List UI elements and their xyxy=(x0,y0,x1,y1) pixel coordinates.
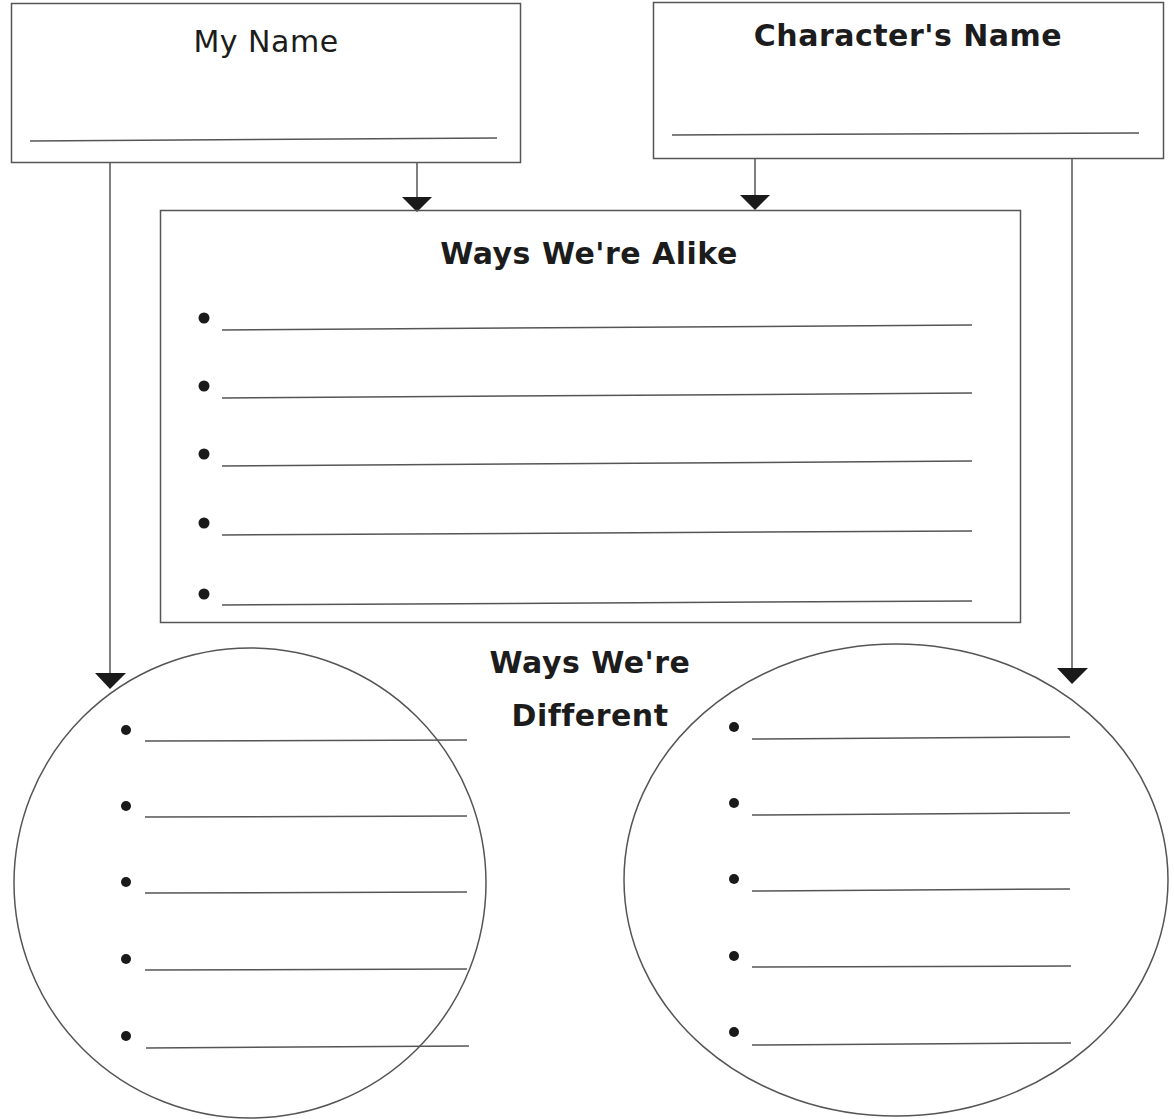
alike-title: Ways We're Alike xyxy=(440,236,738,271)
bullet-icon xyxy=(121,725,131,735)
my-differences-ellipse xyxy=(14,648,486,1118)
my-diff-line-1[interactable] xyxy=(121,725,467,741)
alike-line-3[interactable] xyxy=(199,449,973,467)
bullet-icon xyxy=(121,954,131,964)
bullet-icon xyxy=(199,313,210,324)
bullet-icon xyxy=(199,589,210,600)
arrow-my-name-to-alike xyxy=(402,163,432,212)
bullet-icon xyxy=(121,1031,131,1041)
alike-line-2[interactable] xyxy=(199,381,973,399)
alike-line-4[interactable] xyxy=(199,518,973,536)
arrow-character-to-alike xyxy=(740,158,770,210)
my-name-write-line[interactable] xyxy=(30,138,497,141)
bullet-icon xyxy=(729,874,739,884)
character-differences-ellipse xyxy=(624,644,1168,1116)
bullet-icon xyxy=(729,1027,739,1037)
my-diff-line-2[interactable] xyxy=(121,801,467,817)
arrow-my-name-to-ellipse xyxy=(95,163,126,689)
bullet-icon xyxy=(729,951,739,961)
alike-box xyxy=(161,211,1021,623)
char-diff-line-1[interactable] xyxy=(729,722,1070,739)
my-name-label: My Name xyxy=(193,24,338,59)
character-name-write-line[interactable] xyxy=(672,133,1139,135)
my-diff-line-5[interactable] xyxy=(121,1031,469,1048)
arrowhead-icon xyxy=(1057,668,1088,684)
char-diff-line-4[interactable] xyxy=(729,951,1071,967)
alike-line-5[interactable] xyxy=(199,589,973,606)
bullet-icon xyxy=(121,801,131,811)
bullet-icon xyxy=(199,449,210,460)
char-diff-line-2[interactable] xyxy=(729,798,1070,815)
my-diff-line-4[interactable] xyxy=(121,954,467,970)
bullet-icon xyxy=(199,381,210,392)
different-title-line1: Ways We're xyxy=(490,645,691,680)
arrow-character-to-ellipse xyxy=(1057,158,1088,684)
char-diff-line-3[interactable] xyxy=(729,874,1070,891)
different-title-line2: Different xyxy=(512,698,669,733)
bullet-icon xyxy=(121,877,131,887)
character-name-label: Character's Name xyxy=(754,18,1062,53)
char-diff-line-5[interactable] xyxy=(729,1027,1071,1045)
worksheet-graphics xyxy=(0,0,1174,1119)
bullet-icon xyxy=(729,722,739,732)
bullet-icon xyxy=(199,518,210,529)
arrowhead-icon xyxy=(740,195,770,210)
bullet-icon xyxy=(729,798,739,808)
my-diff-line-3[interactable] xyxy=(121,877,467,893)
alike-line-1[interactable] xyxy=(199,313,973,331)
